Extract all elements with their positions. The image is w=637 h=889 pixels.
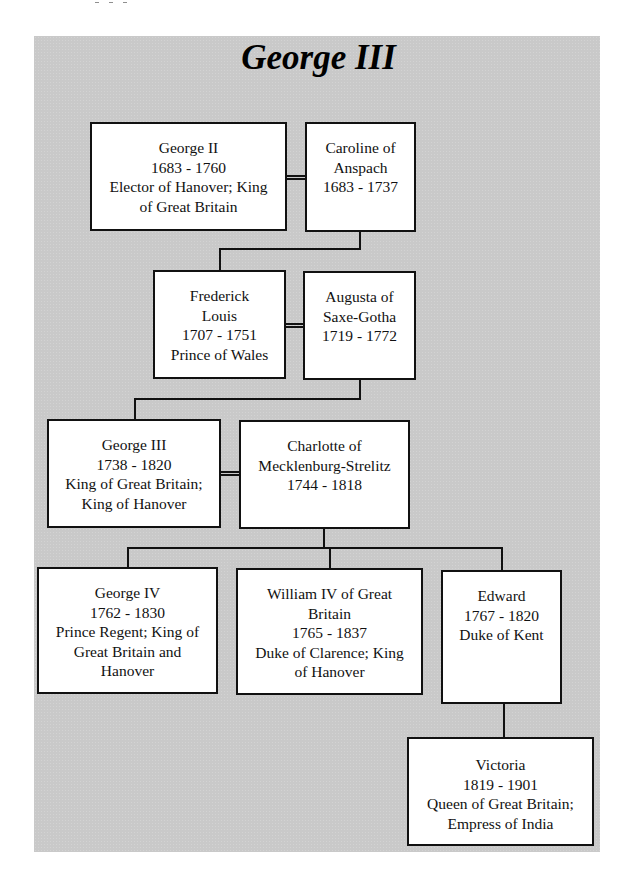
marriage-line-george-ii-caroline bbox=[286, 175, 306, 180]
person-george-ii: George II 1683 - 1760 Elector of Hanover… bbox=[90, 122, 287, 231]
person-title: King of Great Britain; bbox=[65, 474, 202, 494]
descent-line bbox=[359, 379, 361, 400]
person-title: Duke of Kent bbox=[459, 625, 543, 645]
person-dates: 1707 - 1751 bbox=[182, 325, 257, 345]
person-name: Louis bbox=[202, 306, 237, 326]
descent-line bbox=[134, 398, 136, 420]
person-edward: Edward 1767 - 1820 Duke of Kent bbox=[441, 570, 562, 704]
person-title: Empress of India bbox=[448, 814, 554, 834]
chart-title: George III bbox=[0, 38, 637, 78]
person-dates: 1744 - 1818 bbox=[287, 475, 362, 495]
person-name: Charlotte of bbox=[287, 436, 361, 456]
person-title: Prince Regent; King of bbox=[56, 622, 199, 642]
person-dates: 1738 - 1820 bbox=[97, 455, 172, 475]
person-name: Mecklenburg-Strelitz bbox=[258, 456, 390, 476]
person-dates: 1683 - 1760 bbox=[151, 158, 226, 178]
clipped-header-text bbox=[95, 0, 165, 3]
person-title: King of Hanover bbox=[81, 494, 186, 514]
person-augusta: Augusta of Saxe-Gotha 1719 - 1772 bbox=[303, 271, 416, 380]
person-title: of Hanover bbox=[294, 662, 364, 682]
person-title: Great Britain and bbox=[74, 642, 182, 662]
descent-line bbox=[501, 547, 503, 571]
descent-line bbox=[219, 248, 221, 271]
person-name: George II bbox=[159, 138, 219, 158]
person-dates: 1819 - 1901 bbox=[463, 775, 538, 795]
person-frederick: Frederick Louis 1707 - 1751 Prince of Wa… bbox=[153, 270, 286, 379]
person-victoria: Victoria 1819 - 1901 Queen of Great Brit… bbox=[407, 737, 594, 846]
person-dates: 1765 - 1837 bbox=[292, 623, 367, 643]
person-name: William IV of Great bbox=[267, 584, 392, 604]
person-name: Frederick bbox=[190, 286, 249, 306]
descent-line bbox=[127, 547, 503, 549]
person-dates: 1767 - 1820 bbox=[464, 606, 539, 626]
person-george-iii: George III 1738 - 1820 King of Great Bri… bbox=[47, 419, 221, 528]
person-george-iv: George IV 1762 - 1830 Prince Regent; Kin… bbox=[37, 567, 218, 694]
person-title: Hanover bbox=[101, 661, 154, 681]
marriage-line-frederick-augusta bbox=[285, 323, 304, 328]
descent-line bbox=[134, 398, 361, 400]
person-caroline: Caroline of Anspach 1683 - 1737 bbox=[305, 122, 416, 232]
person-dates: 1719 - 1772 bbox=[322, 326, 397, 346]
person-william-iv: William IV of Great Britain 1765 - 1837 … bbox=[236, 568, 423, 695]
person-dates: 1762 - 1830 bbox=[90, 603, 165, 623]
person-name: Victoria bbox=[476, 755, 526, 775]
person-name: Augusta of bbox=[325, 287, 393, 307]
descent-line bbox=[127, 547, 129, 568]
person-name: Saxe-Gotha bbox=[323, 307, 396, 327]
person-title: Prince of Wales bbox=[171, 345, 268, 365]
person-dates: 1683 - 1737 bbox=[323, 177, 398, 197]
person-charlotte: Charlotte of Mecklenburg-Strelitz 1744 -… bbox=[239, 420, 410, 529]
person-name: George IV bbox=[95, 583, 161, 603]
descent-line bbox=[329, 547, 331, 569]
person-title: Queen of Great Britain; bbox=[427, 794, 574, 814]
person-name: George III bbox=[102, 435, 167, 455]
person-title: of Great Britain bbox=[139, 197, 237, 217]
marriage-line-george-iii-charlotte bbox=[220, 471, 240, 476]
person-title: Duke of Clarence; King bbox=[255, 643, 404, 663]
descent-line bbox=[323, 528, 325, 549]
person-name: Caroline of bbox=[325, 138, 395, 158]
descent-line bbox=[219, 248, 361, 250]
person-name: Anspach bbox=[333, 158, 387, 178]
person-name: Britain bbox=[308, 604, 351, 624]
person-title: Elector of Hanover; King bbox=[110, 177, 268, 197]
person-name: Edward bbox=[477, 586, 525, 606]
